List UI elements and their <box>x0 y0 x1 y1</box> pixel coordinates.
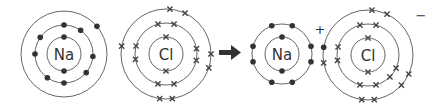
cl-ion: Cl− <box>321 8 427 103</box>
electron-cross-icon <box>182 11 187 16</box>
element-symbol: Na <box>272 46 292 64</box>
electron-dot-icon <box>61 22 67 28</box>
electron-dot-icon <box>78 27 84 33</box>
electron-dot-icon <box>321 44 327 50</box>
electron-cross-icon <box>399 83 404 88</box>
electron-dot-icon <box>32 51 38 57</box>
electron-dot-icon <box>45 75 51 81</box>
na-ion: Na+ <box>250 22 325 85</box>
arrow-shaft <box>219 50 232 55</box>
electron-cross-icon <box>206 65 211 70</box>
electron-cross-icon <box>393 66 398 71</box>
ion-charge: + <box>315 22 326 37</box>
element-symbol: Cl <box>361 47 376 65</box>
electron-dot-icon <box>61 80 67 86</box>
electron-dot-icon <box>250 43 256 49</box>
electron-dot-icon <box>308 43 314 49</box>
arrow-head-icon <box>231 45 241 60</box>
electron-dot-icon <box>83 70 89 76</box>
electron-dot-icon <box>269 23 275 29</box>
electron-dot-icon <box>269 79 275 85</box>
cl-atom: Cl <box>119 7 214 102</box>
electron-dot-icon <box>94 24 100 30</box>
ion-charge: − <box>416 8 427 23</box>
electron-cross-icon <box>406 71 411 76</box>
diagram-canvas: NaClNa+Cl− <box>0 0 435 106</box>
electron-dot-icon <box>308 59 314 65</box>
electron-dot-icon <box>279 68 285 74</box>
electron-cross-icon <box>384 12 389 17</box>
electron-dot-icon <box>279 34 285 40</box>
electron-dot-icon <box>61 34 67 40</box>
na-atom: Na <box>21 11 107 97</box>
electron-cross-icon <box>387 74 392 79</box>
element-symbol: Cl <box>159 46 174 64</box>
reaction-arrow <box>219 45 241 60</box>
electron-dot-icon <box>37 35 43 41</box>
electron-dot-icon <box>250 59 256 65</box>
electron-dot-icon <box>90 54 96 60</box>
element-symbol: Na <box>54 46 74 64</box>
ionic-bonding-diagram: NaClNa+Cl− <box>0 0 435 106</box>
electron-dot-icon <box>289 23 295 29</box>
electron-dot-icon <box>289 79 295 85</box>
electron-dot-icon <box>61 68 67 74</box>
